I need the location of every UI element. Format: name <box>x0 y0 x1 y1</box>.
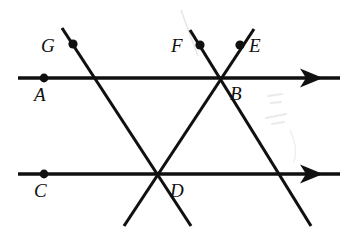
point-label-e: E <box>249 36 261 55</box>
point-label-c: C <box>34 181 47 200</box>
scan-smudge-right <box>266 94 286 124</box>
line-e-through-b-and-d <box>124 29 254 226</box>
point-g-dot <box>68 39 77 48</box>
scan-smudge-upper <box>181 10 198 56</box>
point-label-f: F <box>171 36 183 55</box>
parallel-rays-group <box>18 78 340 174</box>
point-e-dot <box>235 40 244 49</box>
point-dots-group <box>40 39 245 178</box>
point-label-a: A <box>34 85 46 104</box>
point-c-dot <box>40 170 49 179</box>
point-label-d: D <box>170 181 184 200</box>
point-label-b: B <box>230 84 242 103</box>
geometry-figure: A B C D E F G <box>0 0 353 233</box>
arrowheads-group <box>300 69 323 184</box>
point-f-dot <box>195 40 204 49</box>
line-f-through-b <box>190 30 311 226</box>
point-label-g: G <box>41 36 55 55</box>
point-a-dot <box>40 74 49 83</box>
scan-smudge-right-tail <box>290 130 296 162</box>
transversal-group <box>62 28 311 226</box>
